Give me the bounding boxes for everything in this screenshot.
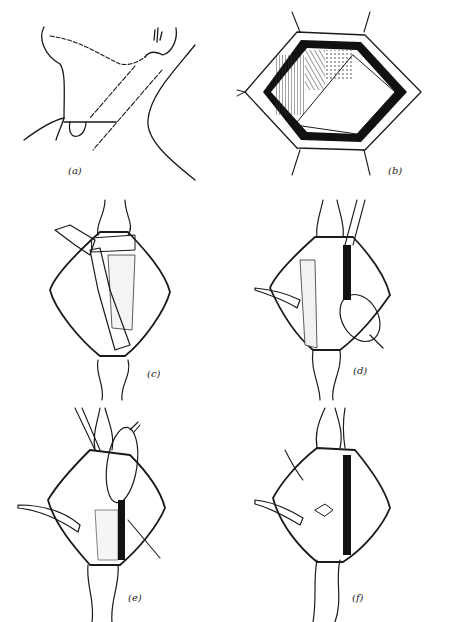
panel-label-e: (e) bbox=[128, 592, 142, 603]
hexagonal-wound-illustration bbox=[225, 0, 450, 200]
panel-c: (c) bbox=[0, 200, 225, 400]
diamond-wound-closure-illustration bbox=[225, 400, 450, 622]
panel-label-f: (f) bbox=[352, 592, 364, 603]
panel-label-a: (a) bbox=[68, 165, 82, 176]
diamond-wound-gland-exposed-illustration bbox=[225, 200, 450, 400]
panel-b: (b) bbox=[225, 0, 450, 200]
neck-outline-illustration bbox=[0, 0, 225, 200]
panel-label-c: (c) bbox=[147, 368, 160, 379]
diamond-wound-gland-lifted-illustration bbox=[0, 400, 225, 622]
panel-d: (d) bbox=[225, 200, 450, 400]
panel-label-b: (b) bbox=[388, 165, 402, 176]
panel-a: (a) bbox=[0, 0, 225, 200]
panel-e: (e) bbox=[0, 400, 225, 622]
panel-label-d: (d) bbox=[353, 365, 367, 376]
diamond-wound-retracted-muscle-illustration bbox=[0, 200, 225, 400]
panel-f: (f) bbox=[225, 400, 450, 622]
